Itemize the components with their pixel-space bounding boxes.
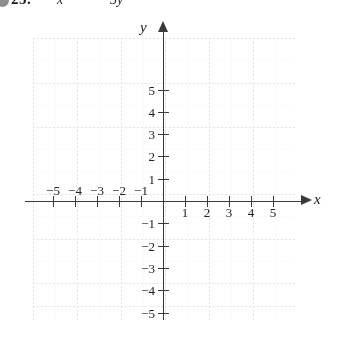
y-tick-label-4: 4 [133,106,155,119]
x-tick-label-3: 3 [217,206,241,219]
x-tick-label--5: −5 [41,184,65,197]
x-axis-line [25,201,303,202]
x-tick-label--2: −2 [107,184,131,197]
y-tick-4 [158,112,169,113]
x-axis-arrow-icon [301,195,312,205]
y-tick--3 [158,268,169,269]
equation-left-term: x [57,0,63,8]
y-axis-label: y [140,19,147,36]
x-tick-label--3: −3 [85,184,109,197]
y-tick-label-2: 2 [133,150,155,163]
equation-right-term: 5y [110,0,123,8]
x-tick-label--4: −4 [63,184,87,197]
y-tick-label--4: −4 [133,284,155,297]
x-tick-label-5: 5 [261,206,285,219]
y-tick--4 [158,290,169,291]
coordinate-plane: x y −5−4−3−2−112345 54321−1−2−3−4−5 [33,38,295,320]
y-tick-label--2: −2 [133,240,155,253]
y-tick-label--1: −1 [133,217,155,230]
y-axis-arrow-icon [158,21,168,32]
y-tick--5 [158,313,169,314]
y-tick-label--5: −5 [133,307,155,320]
y-tick-label--3: −3 [133,262,155,275]
x-tick-label-2: 2 [195,206,219,219]
y-tick-5 [158,90,169,91]
bullet-icon [0,0,9,7]
y-axis-line [163,30,164,320]
x-tick-label-1: 1 [173,206,197,219]
y-tick-1 [158,179,169,180]
problem-number: 25. [11,0,31,8]
x-tick-label-4: 4 [239,206,263,219]
y-tick--2 [158,246,169,247]
y-tick-label-3: 3 [133,128,155,141]
y-tick--1 [158,223,169,224]
y-tick-label-5: 5 [133,84,155,97]
y-tick-3 [158,134,169,135]
y-tick-2 [158,156,169,157]
y-tick-label-1: 1 [133,173,155,186]
problem-header: 25. x 5y [0,0,348,13]
x-axis-label: x [314,191,321,208]
